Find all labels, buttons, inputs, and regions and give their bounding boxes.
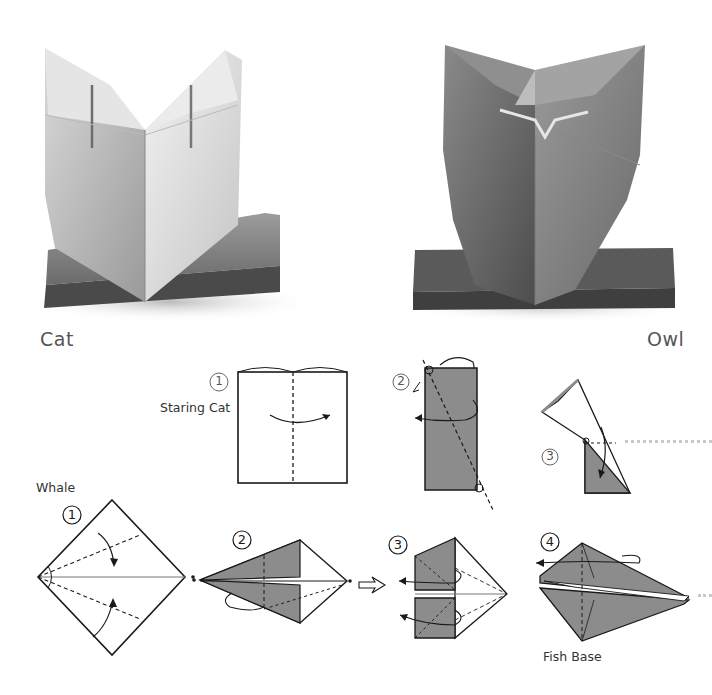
fish-base-caption: Fish Base <box>543 649 602 664</box>
owl-label: Owl <box>647 328 684 350</box>
whale-title: Whale <box>36 480 75 495</box>
whale-step-4-diagram <box>534 538 694 638</box>
dotted-connector-2 <box>698 594 712 599</box>
staring-cat-title: Staring Cat <box>160 400 230 415</box>
cat-label: Cat <box>40 328 74 350</box>
dotted-connector <box>625 440 712 445</box>
owl-photo <box>395 40 695 320</box>
staring-cat-step-1-number: 1 <box>209 372 229 392</box>
next-step-arrow-icon <box>357 575 389 595</box>
cat-photo <box>20 40 320 320</box>
whale-step-1-diagram <box>30 495 200 665</box>
staring-cat-step-2-diagram <box>405 360 515 520</box>
owl-origami-image <box>395 40 695 320</box>
whale-step-2-diagram <box>192 535 357 635</box>
whale-step-3-diagram <box>395 528 525 638</box>
staring-cat-step-1-diagram <box>235 360 365 490</box>
staring-cat-step-3-diagram <box>538 375 638 495</box>
cat-origami-image <box>20 40 320 320</box>
